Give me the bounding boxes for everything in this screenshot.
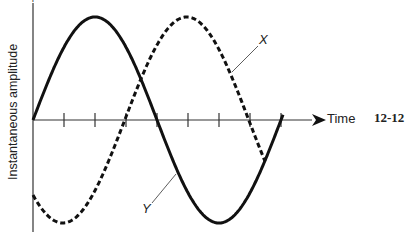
time-arrow-icon: [312, 114, 326, 126]
curve-y-label: Y: [142, 201, 151, 216]
axis-plus-marker: +: [30, 0, 36, 5]
x-axis-label: Time: [327, 111, 355, 126]
curve-x-label: X: [259, 32, 268, 47]
figure-number: 12-12: [374, 110, 404, 126]
y-leader-line: [152, 174, 176, 203]
x-leader-line: [232, 46, 258, 72]
y-axis-label: Instantaneous amplitude: [6, 50, 20, 180]
